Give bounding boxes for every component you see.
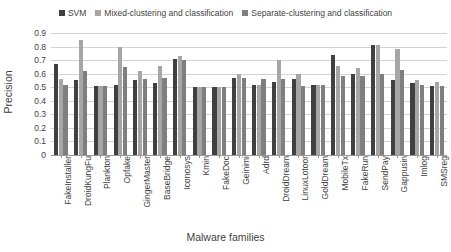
x-axis-tick-mark: [358, 156, 359, 158]
bar: [252, 85, 256, 155]
bar: [158, 66, 162, 155]
x-axis-label-cell: SMSreg: [427, 156, 447, 230]
bar: [420, 85, 424, 155]
bar: [360, 76, 364, 155]
bar: [257, 85, 261, 155]
x-axis-tick-mark: [259, 156, 260, 158]
x-axis-label-cell: Geinimi: [229, 156, 249, 230]
bar: [222, 87, 226, 155]
bar: [281, 79, 285, 155]
x-axis-label-cell: FakeInstaller: [51, 156, 71, 230]
bar: [391, 80, 395, 155]
bar: [395, 49, 399, 155]
x-axis-tick-mark: [61, 156, 62, 158]
bar: [336, 66, 340, 155]
bar-group: [407, 33, 427, 155]
bar: [123, 67, 127, 155]
precision-bar-chart: SVM Mixed-clustering and classification …: [0, 0, 451, 252]
bar-group: [71, 33, 91, 155]
bar-group: [328, 33, 348, 155]
x-axis-tick-mark: [81, 156, 82, 158]
y-axis-title: Precision: [2, 56, 14, 128]
bar: [94, 86, 98, 155]
legend-label-mixed-clustering: Mixed-clustering and classification: [104, 8, 233, 18]
bar: [440, 86, 444, 155]
bar-group: [91, 33, 111, 155]
bar: [114, 85, 118, 155]
y-axis-tick-label: 0: [22, 151, 46, 160]
chart-legend: SVM Mixed-clustering and classification …: [0, 4, 451, 22]
x-axis-label-cell: FakeDoc: [209, 156, 229, 230]
y-axis-tick-label: 0.7: [22, 56, 46, 65]
x-axis-label-cell: Kmin: [190, 156, 210, 230]
bar: [277, 60, 281, 155]
bar-group: [229, 33, 249, 155]
legend-swatch-icon-mixed-clustering: [95, 10, 101, 16]
bar-groups: [51, 33, 447, 155]
y-axis-tick-label: 0.2: [22, 124, 46, 133]
bar: [98, 86, 102, 155]
bar: [143, 79, 147, 155]
x-axis-tick-mark: [239, 156, 240, 158]
bar: [376, 45, 380, 155]
x-axis-tick-mark: [279, 156, 280, 158]
x-axis-label-cell: Adrd: [249, 156, 269, 230]
bar: [371, 45, 375, 155]
legend-swatch-icon-separate-clustering: [242, 10, 248, 16]
legend-label-svm: SVM: [68, 8, 86, 18]
bar: [351, 74, 355, 155]
bar: [138, 71, 142, 155]
bar-group: [170, 33, 190, 155]
bar: [410, 83, 414, 155]
bar: [296, 74, 300, 155]
legend-entry-separate-clustering: Separate-clustering and classification: [242, 8, 392, 18]
x-axis-label-cell: BaseBridge: [150, 156, 170, 230]
bar: [118, 47, 122, 155]
bar: [83, 71, 87, 155]
y-axis-tick-label: 0.9: [22, 29, 46, 38]
legend-entry-mixed-clustering: Mixed-clustering and classification: [95, 8, 233, 18]
bar-group: [368, 33, 388, 155]
bar-group: [130, 33, 150, 155]
bar: [212, 87, 216, 155]
bar: [173, 59, 177, 155]
bar: [103, 86, 107, 155]
x-axis-label-cell: Iconosys: [170, 156, 190, 230]
x-axis-label-cell: Opfake: [110, 156, 130, 230]
x-axis-tick-mark: [140, 156, 141, 158]
bar: [178, 56, 182, 155]
x-axis-tick-mark: [437, 156, 438, 158]
bar: [193, 87, 197, 155]
bar: [242, 78, 246, 155]
y-axis-tick-label: 0.3: [22, 110, 46, 119]
bar: [63, 85, 67, 155]
bar-group: [308, 33, 328, 155]
x-axis-label-cell: SendPay: [368, 156, 388, 230]
x-axis-tick-label: SMSreg: [440, 156, 449, 187]
bar: [261, 79, 265, 155]
x-axis-tick-mark: [160, 156, 161, 158]
bar: [331, 55, 335, 155]
bar: [79, 40, 83, 155]
y-axis-tick-label: 0.1: [22, 137, 46, 146]
bar: [197, 87, 201, 155]
y-axis-tick-label: 0.8: [22, 42, 46, 51]
bar-group: [110, 33, 130, 155]
plot-area: [51, 33, 447, 156]
bar: [316, 85, 320, 155]
bar-group: [348, 33, 368, 155]
bar-group: [150, 33, 170, 155]
x-axis-tick-mark: [378, 156, 379, 158]
bar: [54, 64, 58, 155]
legend-swatch-icon-svm: [59, 10, 65, 16]
bar: [74, 80, 78, 155]
bar: [430, 86, 434, 155]
bar: [435, 82, 439, 155]
bar: [301, 86, 305, 155]
bar: [292, 79, 296, 155]
bar: [133, 80, 137, 155]
x-axis-tick-mark: [180, 156, 181, 158]
bar: [341, 76, 345, 155]
x-axis-label-cell: Plankton: [91, 156, 111, 230]
bar: [59, 79, 63, 155]
